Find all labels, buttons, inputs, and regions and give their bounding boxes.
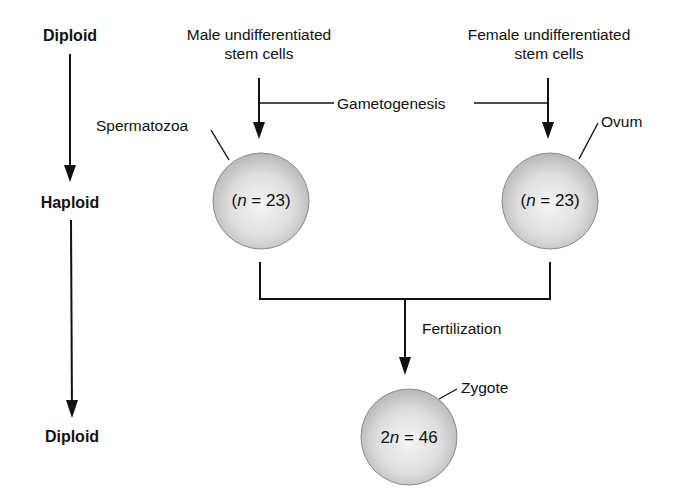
male-stem-cells-line2: stem cells	[187, 44, 331, 63]
zygote-label: Zygote	[461, 378, 508, 397]
spermatozoa-chromosome-count: (n = 23)	[231, 191, 290, 211]
zygote-chromosome-count: 2n = 46	[380, 428, 437, 448]
male-stem-cells-label: Male undifferentiated stem cells	[187, 25, 331, 63]
ovum-label: Ovum	[601, 112, 642, 131]
fertilization-label: Fertilization	[422, 319, 501, 338]
ploidy-label-haploid: Haploid	[41, 193, 100, 212]
female-stem-cells-line1: Female undifferentiated	[468, 25, 631, 44]
ovum-leader	[579, 123, 598, 159]
diagram-canvas	[0, 0, 682, 502]
fertilization-bracket	[259, 262, 551, 299]
ploidy-label-diploid-bottom: Diploid	[45, 427, 99, 446]
zygote-leader	[439, 389, 457, 399]
female-gametogenesis-arrow	[542, 78, 554, 139]
female-stem-cells-label: Female undifferentiated stem cells	[468, 25, 631, 63]
female-stem-cells-line2: stem cells	[468, 44, 631, 63]
male-stem-cells-line1: Male undifferentiated	[187, 25, 331, 44]
ovum-chromosome-count: (n = 23)	[520, 191, 579, 211]
spermatozoa-leader	[211, 130, 229, 160]
male-gametogenesis-arrow	[253, 78, 265, 139]
ploidy-label-diploid-top: Diploid	[43, 26, 97, 45]
gametogenesis-label: Gametogenesis	[337, 94, 446, 113]
fertilization-arrow	[399, 299, 411, 375]
spermatozoa-label: Spermatozoa	[96, 116, 188, 135]
ploidy-arrow-2	[66, 220, 78, 418]
ploidy-arrow-1	[64, 54, 76, 182]
